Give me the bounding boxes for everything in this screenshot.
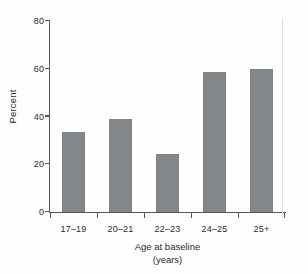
y-axis-tick-mark bbox=[45, 163, 50, 164]
x-axis-tick-label: 22–23 bbox=[144, 224, 192, 234]
x-axis-title-text: Age at baseline bbox=[50, 240, 285, 253]
x-axis-tick-label: 17–19 bbox=[50, 224, 98, 234]
y-axis-tick-labels: 020406080 bbox=[18, 0, 44, 274]
y-axis-line bbox=[49, 20, 50, 213]
y-axis-tick-label: 0 bbox=[18, 207, 44, 217]
bar-chart-figure: Percent 020406080 17–1920–2122–2324–2525… bbox=[0, 0, 308, 274]
x-axis-tick-label: 24–25 bbox=[191, 224, 239, 234]
x-axis-unit-text: (years) bbox=[50, 253, 285, 266]
x-axis-tick-mark bbox=[97, 213, 98, 218]
x-axis-tick-mark bbox=[284, 213, 285, 218]
y-axis-title: Percent bbox=[5, 0, 19, 212]
x-axis-tick-mark bbox=[191, 213, 192, 218]
x-axis-line bbox=[49, 212, 286, 213]
bar bbox=[250, 69, 273, 212]
y-axis-tick-mark bbox=[45, 68, 50, 69]
bar bbox=[109, 119, 132, 212]
y-axis-tick-mark bbox=[45, 20, 50, 21]
y-axis-tick-label: 20 bbox=[18, 159, 44, 169]
x-axis-tick-mark bbox=[238, 213, 239, 218]
bar bbox=[156, 154, 179, 212]
x-axis-tick-label: 20–21 bbox=[97, 224, 145, 234]
y-axis-tick-label: 40 bbox=[18, 112, 44, 122]
y-axis-tick-label: 60 bbox=[18, 64, 44, 74]
x-axis-tick-mark bbox=[50, 213, 51, 218]
x-axis-tick-mark bbox=[144, 213, 145, 218]
x-axis-tick-label: 25+ bbox=[238, 224, 286, 234]
plot-area: 17–1920–2122–2324–2525+ bbox=[50, 21, 285, 212]
y-axis-title-text: Percent bbox=[7, 89, 18, 123]
bar bbox=[62, 132, 85, 212]
scan-artifact-line bbox=[282, 18, 283, 218]
x-axis-title: Age at baseline (years) bbox=[50, 240, 285, 266]
y-axis-tick-mark bbox=[45, 115, 50, 116]
y-axis-tick-label: 80 bbox=[18, 16, 44, 26]
bar bbox=[203, 72, 226, 212]
